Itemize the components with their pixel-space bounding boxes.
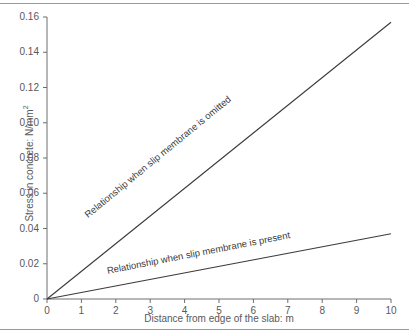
data-series-group <box>47 22 391 299</box>
y-axis-title-text: Stress in concrete: N/mm <box>24 109 35 221</box>
y-tick-label: 0.02 <box>5 259 39 269</box>
x-axis-group <box>47 299 391 303</box>
y-tick-label: 0 <box>5 294 39 304</box>
x-axis-title: Distance from edge of the slab: m <box>47 313 391 324</box>
x-axis-ticks <box>47 299 391 303</box>
chart-figure: 00.020.040.060.080.100.120.140.16 012345… <box>0 0 409 334</box>
plot-area <box>0 0 409 334</box>
y-tick-label: 0.14 <box>5 47 39 57</box>
y-axis-title-superscript: 2 <box>22 105 29 109</box>
y-axis-title: Stress in concrete: N/mm2 <box>24 74 35 254</box>
data-line <box>47 22 391 299</box>
y-axis-ticks <box>43 17 47 299</box>
y-axis-group <box>43 17 47 299</box>
y-tick-label: 0.16 <box>5 12 39 22</box>
